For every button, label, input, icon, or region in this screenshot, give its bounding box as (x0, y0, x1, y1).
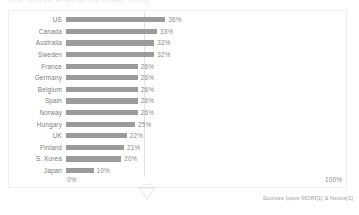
bar-track: 21% (66, 142, 348, 154)
chart-frame: US36%Canada33%Australia32%Sweden32%Franc… (8, 10, 347, 188)
x-axis: 0% 100% (9, 176, 348, 188)
clipped-title-strip: New Tech (or whatever the header reads) (0, 0, 359, 7)
bar-chart-plot: US36%Canada33%Australia32%Sweden32%Franc… (9, 11, 348, 189)
bar-row-label: Finland (9, 144, 66, 151)
bar-row-label: Germany (9, 74, 66, 81)
bar-row-label: Belgium (9, 86, 66, 93)
bar (66, 110, 138, 115)
bar-value-label: 26% (141, 86, 154, 93)
bar-row-label: Norway (9, 109, 66, 116)
bar (66, 75, 138, 80)
bar-row: Norway26% (9, 107, 348, 119)
bar (66, 17, 165, 22)
bar (66, 40, 154, 45)
bar-track: 26% (66, 107, 348, 119)
bar-track: 26% (66, 60, 348, 72)
x-axis-tick-min: 0% (67, 176, 77, 184)
bar-row: Belgium26% (9, 84, 348, 96)
bar-value-label: 21% (127, 144, 140, 151)
bar-rows: US36%Canada33%Australia32%Sweden32%Franc… (9, 14, 348, 176)
bar (66, 98, 138, 103)
bar-track: 22% (66, 130, 348, 142)
bar-row-label: Sweden (9, 51, 66, 58)
bar (66, 145, 124, 150)
diamond-watermark-icon (133, 182, 161, 202)
bar-row: France26% (9, 60, 348, 72)
page-title: New Tech (or whatever the header reads) (8, 0, 150, 4)
bar-track: 26% (66, 72, 348, 84)
bar-row-label: S. Korea (9, 155, 66, 162)
x-axis-tick-max: 100% (325, 176, 342, 184)
source-note: Sources Ipsos-MORI[1] & Nexus[1] (263, 195, 353, 202)
bar-row-label: Spain (9, 97, 66, 104)
bar (66, 122, 135, 127)
bar-row: S. Korea20% (9, 153, 348, 165)
bar-track: 20% (66, 153, 348, 165)
bar-row: Germany26% (9, 72, 348, 84)
bar-track: 33% (66, 26, 348, 38)
bar-track: 26% (66, 95, 348, 107)
bar-row-label: France (9, 63, 66, 70)
bar-row-label: Australia (9, 39, 66, 46)
bar-value-label: 26% (141, 109, 154, 116)
bar (66, 64, 138, 69)
bar-row-label: US (9, 16, 66, 23)
bar-value-label: 32% (157, 51, 170, 58)
bar (66, 87, 138, 92)
bar (66, 168, 94, 173)
bar-value-label: 33% (160, 28, 173, 35)
bar-value-label: 26% (141, 63, 154, 70)
bar-value-label: 10% (97, 167, 110, 174)
bar-row: Sweden32% (9, 49, 348, 61)
bar-row: Finland21% (9, 142, 348, 154)
bar-track: 25% (66, 118, 348, 130)
bar-value-label: 26% (141, 97, 154, 104)
bar-row-label: Hungary (9, 121, 66, 128)
bar-row: Australia32% (9, 37, 348, 49)
bar-value-label: 26% (141, 74, 154, 81)
bar-track: 36% (66, 14, 348, 26)
bar-value-label: 25% (138, 121, 151, 128)
bar-value-label: 36% (168, 16, 181, 23)
bar-row: US36% (9, 14, 348, 26)
bar-row: UK22% (9, 130, 348, 142)
bar-row-label: Japan (9, 167, 66, 174)
bar-track: 32% (66, 37, 348, 49)
bar-track: 26% (66, 84, 348, 96)
bar-value-label: 20% (124, 155, 137, 162)
bar (66, 52, 154, 57)
bar-row: Spain26% (9, 95, 348, 107)
bar-track: 32% (66, 49, 348, 61)
bar (66, 133, 127, 138)
bar-value-label: 22% (130, 132, 143, 139)
bar-row: Japan10% (9, 165, 348, 177)
bar-track: 10% (66, 165, 348, 177)
bar (66, 29, 157, 34)
bar-row: Canada33% (9, 26, 348, 38)
bar-value-label: 32% (157, 39, 170, 46)
bar (66, 156, 121, 161)
bar-row-label: Canada (9, 28, 66, 35)
bar-row-label: UK (9, 132, 66, 139)
bar-row: Hungary25% (9, 118, 348, 130)
